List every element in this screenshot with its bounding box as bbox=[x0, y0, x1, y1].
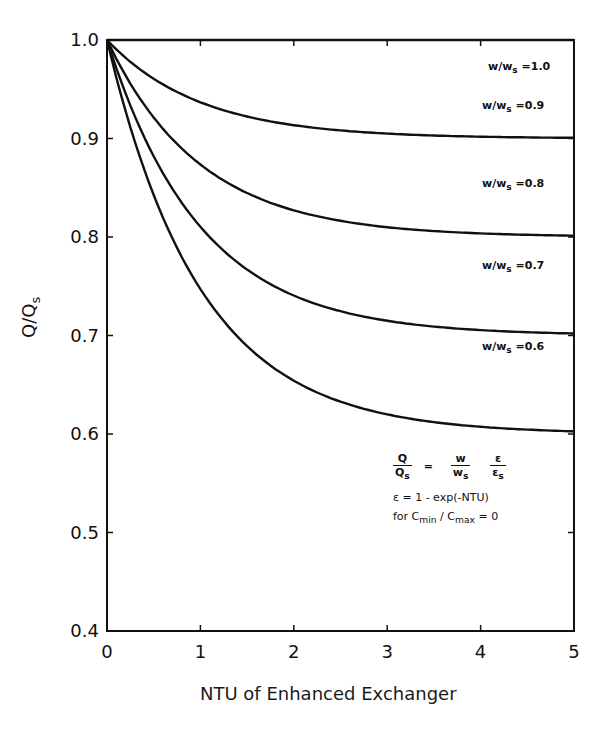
y-tick-label: 0.6 bbox=[49, 423, 99, 444]
frac-eps-den: εs bbox=[490, 466, 506, 481]
y-tick-label: 0.8 bbox=[49, 226, 99, 247]
x-tick-label: 1 bbox=[185, 641, 215, 662]
y-tick-label: 1.0 bbox=[49, 29, 99, 50]
x-tick-label: 2 bbox=[279, 641, 309, 662]
y-axis-label: Q/Qs bbox=[18, 297, 43, 338]
formula-ratio: Q Qs = w ws ε εs bbox=[393, 452, 514, 481]
x-tick-label: 3 bbox=[372, 641, 402, 662]
x-tick-label: 0 bbox=[92, 641, 122, 662]
curve-label: w/ws =0.7 bbox=[482, 259, 544, 274]
x-tick-label: 5 bbox=[559, 641, 589, 662]
frac-eps-num: ε bbox=[490, 452, 506, 466]
curve-label: w/ws =0.9 bbox=[482, 99, 544, 114]
y-axis-label-text: Q/Q bbox=[18, 303, 39, 337]
x-tick-label: 4 bbox=[466, 641, 496, 662]
x-axis-label: NTU of Enhanced Exchanger bbox=[200, 683, 457, 704]
formula-line-2: ε = 1 - exp(-NTU) bbox=[393, 491, 514, 504]
curve-label: w/ws =0.8 bbox=[482, 177, 544, 192]
frac-eps: ε εs bbox=[490, 452, 506, 481]
frac-q-num: Q bbox=[393, 452, 412, 466]
curve-0-9 bbox=[107, 40, 574, 138]
formula-block: Q Qs = w ws ε εs ε = 1 - exp(-NTU) for C… bbox=[393, 452, 514, 525]
curve-label: w/ws =1.0 bbox=[488, 60, 550, 75]
y-tick-label: 0.5 bbox=[49, 522, 99, 543]
frac-q: Q Qs bbox=[393, 452, 412, 481]
formula-equals: = bbox=[424, 460, 433, 473]
frac-w: w ws bbox=[451, 452, 471, 481]
curve-label: w/ws =0.6 bbox=[482, 340, 544, 355]
axis-ticks bbox=[107, 40, 574, 631]
y-tick-label: 0.4 bbox=[49, 620, 99, 641]
frac-w-den: ws bbox=[451, 466, 471, 481]
y-tick-label: 0.7 bbox=[49, 325, 99, 346]
y-axis-label-sub: s bbox=[28, 297, 43, 304]
frac-q-den: Qs bbox=[393, 466, 412, 481]
frac-w-num: w bbox=[451, 452, 471, 466]
y-tick-label: 0.9 bbox=[49, 128, 99, 149]
plot-frame bbox=[107, 40, 574, 631]
formula-line-3: for Cmin / Cmax = 0 bbox=[393, 510, 514, 525]
